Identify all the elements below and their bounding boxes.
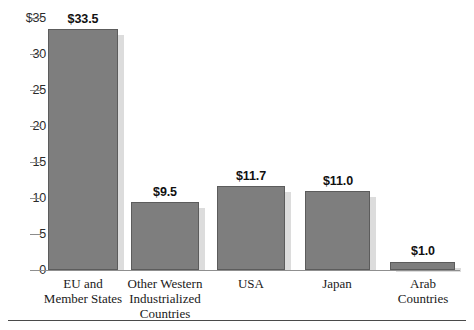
y-axis-tick-mark-20 xyxy=(30,126,41,127)
x-axis-baseline xyxy=(30,270,460,271)
bar-japan[interactable] xyxy=(305,191,370,270)
bar-eu-and-member-states[interactable] xyxy=(48,29,118,270)
bar-arab-countries[interactable] xyxy=(390,262,455,270)
x-axis-category-label-other-western: Other Western Industrialized Countries xyxy=(122,276,208,321)
y-axis-tick-mark-10 xyxy=(30,198,41,199)
y-axis-tick-mark-5 xyxy=(30,234,41,235)
bottom-divider-rule xyxy=(8,320,466,321)
y-axis-tick-mark-15 xyxy=(30,162,41,163)
x-axis-category-label-usa: USA xyxy=(216,276,286,291)
bar-value-label-arab: $1.0 xyxy=(383,244,463,258)
bar-chart: $35 30 25 20 15 10 5 0 $33.5 EU and Memb… xyxy=(0,0,474,330)
y-axis-tick-mark-25 xyxy=(30,90,41,91)
plot-area: $35 30 25 20 15 10 5 0 $33.5 EU and Memb… xyxy=(0,0,474,330)
y-axis-tick-mark-35 xyxy=(30,18,41,19)
bar-value-label-japan: $11.0 xyxy=(298,174,378,188)
x-axis-category-label-arab: Arab Countries xyxy=(387,276,459,306)
x-axis-category-label-japan: Japan xyxy=(302,276,372,291)
bar-value-label-other-western: $9.5 xyxy=(125,185,205,199)
bar-value-label-usa: $11.7 xyxy=(211,169,291,183)
bar-other-western-industrialized-countries[interactable] xyxy=(131,202,199,270)
y-axis-tick-mark-30 xyxy=(30,54,41,55)
bar-value-label-eu: $33.5 xyxy=(43,12,123,26)
bar-usa[interactable] xyxy=(217,186,285,270)
